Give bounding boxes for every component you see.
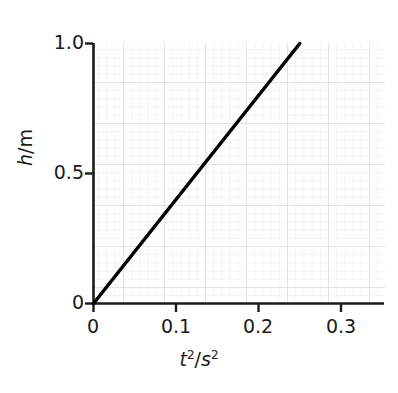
y-tick-label-0-5: 0.5 (34, 161, 84, 183)
y-axis-label-unit: m (14, 129, 36, 148)
x-axis-label: t2/s2 (0, 348, 398, 370)
x-axis-label-unit: s (201, 348, 211, 370)
x-tick-label-0-1: 0.1 (146, 315, 206, 337)
figure-canvas: 1.0 0.5 0 0 0.1 0.2 0.3 h/m t2/s2 (0, 0, 398, 393)
grid-background (93, 43, 385, 303)
x-axis-label-unit-exponent: 2 (211, 348, 219, 362)
y-axis-label-separator: / (14, 148, 36, 154)
x-axis-label-symbol: t (179, 348, 186, 370)
x-tick-label-0-2: 0.2 (228, 315, 288, 337)
y-axis-ticks (85, 44, 93, 304)
y-axis-label: h/m (14, 144, 36, 166)
x-tick-label-0: 0 (63, 315, 123, 337)
y-tick-label-1-0: 1.0 (34, 31, 84, 53)
y-axis-label-symbol: h (14, 154, 36, 166)
x-axis-label-exponent: 2 (187, 348, 195, 362)
y-tick-label-0: 0 (34, 291, 84, 313)
x-tick-label-0-3: 0.3 (311, 315, 371, 337)
